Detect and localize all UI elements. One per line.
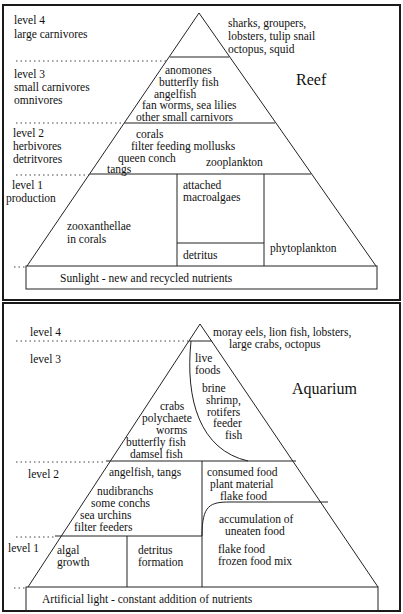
aq-l2-right: plant material (210, 478, 274, 491)
aq-l2-left: some conchs (91, 497, 150, 510)
aq-feed: flake food (218, 543, 265, 556)
reef-level3-desc1: small carnivores (14, 81, 90, 94)
aq-l1-item: detritus (138, 544, 173, 557)
aq-top-species: large crabs, octopus (229, 338, 320, 351)
reef-level4-label: level 4 (14, 14, 45, 27)
reef-title: Reef (296, 74, 326, 87)
reef-level1-desc: production (6, 192, 56, 205)
aq-l2-left: nudibranchs (97, 485, 153, 498)
aq-live-foods: foods (195, 364, 221, 377)
aq-brine: feeder (213, 417, 242, 430)
aq-top-species: moray eels, lion fish, lobsters, (213, 326, 351, 339)
aq-accumulation: uneaten food (225, 525, 285, 538)
aq-l3-species: damsel fish (130, 448, 183, 461)
aq-l2-left: sea urchins (80, 509, 131, 522)
aq-l1-item: algal (57, 544, 79, 557)
aq-l1-item: growth (57, 556, 90, 569)
reef-l1-item: zooxanthellae (67, 220, 131, 233)
aquarium-title: Aquarium (292, 383, 357, 396)
reef-l1-item: macroalgaes (183, 191, 240, 204)
reef-level2-desc1: herbivores (13, 140, 62, 153)
reef-l3-species: fan worms, sea lilies (142, 99, 237, 112)
aq-l2-left: angelfish, tangs (109, 466, 181, 479)
aq-brine: fish (225, 429, 242, 442)
reef-top-species-1: sharks, groupers, (228, 17, 306, 30)
reef-l1-item: in corals (67, 233, 106, 246)
reef-l3-species: other small carnivors (136, 111, 233, 124)
aq-l2-right: consumed food (207, 466, 278, 479)
aq-level2-label: level 2 (28, 468, 59, 481)
aq-l2-right: flake food (220, 490, 267, 503)
aq-level3-label: level 3 (30, 353, 61, 366)
reef-top-species-3: octopus, squid (228, 43, 294, 56)
reef-top-species-2: lobsters, tulip snail (228, 30, 315, 43)
reef-l1-item: detritus (183, 249, 218, 262)
aq-l3-species: polychaete (142, 412, 192, 425)
aq-brine: brine (202, 382, 226, 395)
aq-feed: frozen food mix (218, 555, 292, 568)
aq-l3-species: butterfly fish (126, 436, 186, 449)
reef-level1-label: level 1 (12, 179, 43, 192)
aq-live-foods: live (195, 352, 212, 365)
aq-l1-item: formation (138, 556, 183, 569)
aq-l3-species: worms (156, 424, 187, 437)
reef-l1-item: attached (183, 179, 221, 192)
aq-l3-species: crabs (160, 400, 184, 413)
aq-level4-label: level 4 (30, 326, 61, 339)
reef-level3-desc2: omnivores (14, 94, 63, 107)
aq-accumulation: accumulation of (219, 513, 293, 526)
aq-brine: shrimp, (206, 394, 241, 407)
reef-level2-label: level 2 (13, 127, 44, 140)
reef-base-text: Sunlight - new and recycled nutrients (60, 272, 232, 285)
reef-level3-label: level 3 (14, 68, 45, 81)
aq-level1-label: level 1 (8, 542, 39, 555)
reef-l2-species: corals (136, 128, 163, 141)
reef-level2-desc2: detritvores (13, 153, 62, 166)
reef-l2-species: tangs (107, 163, 131, 176)
aquarium-base-text: Artificial light - constant addition of … (42, 593, 252, 606)
reef-l2-species: zooplankton (206, 156, 263, 169)
reef-l1-item: phytoplankton (270, 242, 336, 255)
reef-l2-species: filter feeding mollusks (131, 140, 235, 153)
reef-l3-species: butterfly fish (159, 76, 219, 89)
reef-l3-species: anomones (165, 64, 212, 77)
aq-l2-left: filter feeders (74, 521, 132, 534)
reef-level4-desc: large carnivores (14, 28, 88, 41)
